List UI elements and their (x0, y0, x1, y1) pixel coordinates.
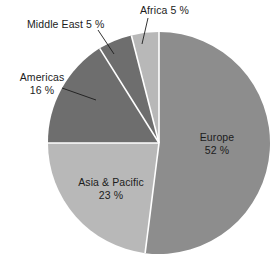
pie-label-middle-east: Middle East 5 % (27, 18, 104, 31)
pie-label-asia-pacific-value: 23 % (67, 189, 155, 202)
pie-label-africa: Africa 5 % (140, 4, 189, 17)
pie-label-americas-name: Americas (20, 71, 65, 83)
pie-label-europe-value: 52 % (190, 144, 244, 157)
pie-label-europe-name: Europe (200, 131, 234, 143)
pie-label-europe: Europe 52 % (190, 131, 244, 156)
pie-label-americas: Americas 16 % (9, 71, 75, 96)
pie-chart: Middle East 5 % Africa 5 % Americas 16 %… (0, 0, 279, 264)
pie-label-asia-pacific-name: Asia & Pacific (78, 176, 144, 188)
pie-label-asia-pacific: Asia & Pacific 23 % (67, 176, 155, 201)
pie-label-americas-value: 16 % (9, 84, 75, 97)
